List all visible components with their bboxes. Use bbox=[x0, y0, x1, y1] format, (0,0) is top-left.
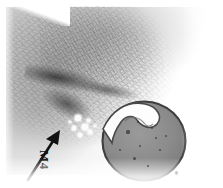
micrograph-figure: M4 bbox=[0, 0, 223, 188]
vacuole bbox=[87, 119, 90, 122]
slide-edge-left bbox=[0, 0, 14, 188]
interior-speck bbox=[133, 157, 136, 160]
vacuole bbox=[88, 130, 92, 134]
interior-speck bbox=[155, 137, 157, 139]
interior-speck bbox=[126, 130, 129, 133]
micrograph-plate: M4 bbox=[0, 0, 223, 188]
interior-speck bbox=[119, 149, 121, 151]
slide-edge-bottom bbox=[0, 158, 223, 188]
interior-speck bbox=[165, 135, 167, 137]
interior-speck bbox=[137, 121, 139, 123]
vacuole bbox=[82, 124, 87, 129]
